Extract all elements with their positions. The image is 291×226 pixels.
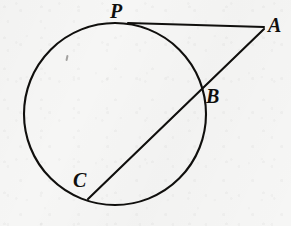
secant-line-AC (88, 29, 264, 199)
circle-shape (24, 23, 206, 205)
point-label-a: A (268, 15, 281, 35)
point-label-p: P (110, 1, 122, 21)
geometry-canvas (0, 0, 291, 226)
geometry-figure: P A B C (0, 0, 291, 226)
tangent-line-PA (128, 23, 264, 27)
point-label-b: B (206, 86, 219, 106)
point-label-c: C (73, 170, 86, 190)
